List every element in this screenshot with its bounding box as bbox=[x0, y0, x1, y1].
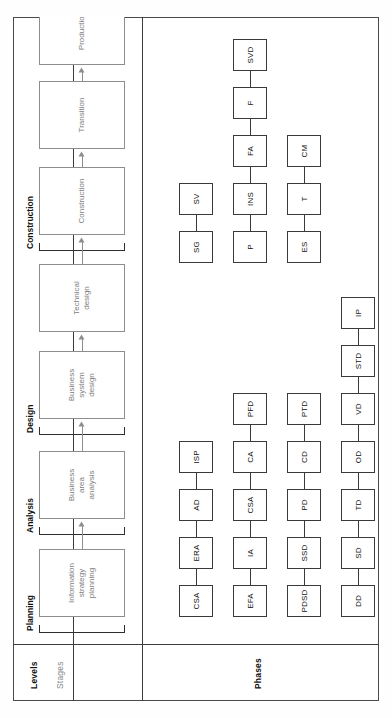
diagram-canvas-secondary: SG SV P INS FA F SVD ES T CM bbox=[13, 17, 379, 701]
phase-box[interactable]: SG bbox=[179, 231, 213, 263]
phase-connector bbox=[250, 119, 251, 135]
phase-box[interactable]: INS bbox=[233, 183, 267, 215]
phase-box[interactable]: SV bbox=[179, 183, 213, 215]
phase-box[interactable]: ES bbox=[287, 231, 321, 263]
phase-connector bbox=[304, 167, 305, 183]
phase-box[interactable]: FA bbox=[233, 135, 267, 167]
phase-box[interactable]: T bbox=[287, 183, 321, 215]
phase-box[interactable]: P bbox=[233, 231, 267, 263]
diagram-page: Levels Stages Phases Planning Analysis D… bbox=[0, 0, 392, 718]
phase-box[interactable]: CM bbox=[287, 135, 321, 167]
phase-connector bbox=[304, 215, 305, 231]
phase-connector bbox=[250, 167, 251, 183]
phase-connector bbox=[250, 71, 251, 87]
phase-connector bbox=[250, 215, 251, 231]
phase-connector bbox=[196, 215, 197, 231]
phase-box[interactable]: SVD bbox=[233, 39, 267, 71]
diagram-rotation-wrapper-secondary: SG SV P INS FA F SVD ES T CM bbox=[13, 17, 379, 701]
phase-box[interactable]: F bbox=[233, 87, 267, 119]
